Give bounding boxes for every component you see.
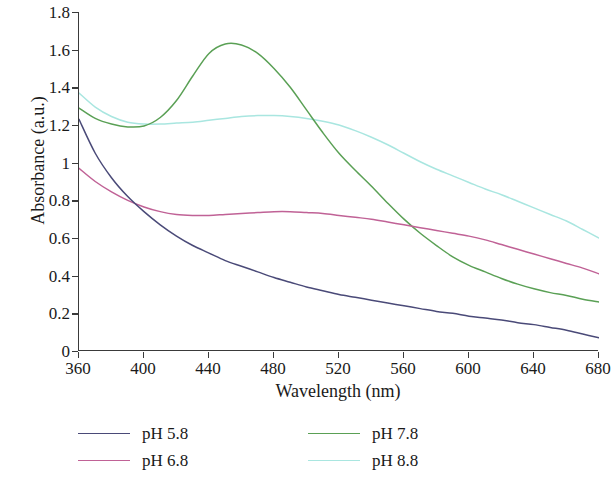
x-axis-tick-mark	[598, 352, 599, 358]
x-axis-tick-label: 480	[260, 360, 286, 377]
y-axis-title: Absorbance (a.u.)	[28, 11, 49, 311]
series-line-ph-8-8	[79, 93, 599, 238]
legend-item: pH 7.8	[308, 420, 538, 447]
legend-item-label: pH 5.8	[142, 425, 188, 442]
series-line-ph-7-8	[79, 43, 599, 302]
legend-color-swatch	[308, 433, 360, 434]
legend-item-label: pH 6.8	[142, 452, 188, 469]
legend-item: pH 5.8	[78, 420, 308, 447]
legend-item: pH 6.8	[78, 447, 308, 474]
legend-item-label: pH 7.8	[372, 425, 418, 442]
x-axis-tick-label: 640	[520, 360, 546, 377]
x-axis-title: Wavelength (nm)	[78, 381, 598, 402]
x-axis-tick-labels: 360400440480520560600640680	[78, 352, 598, 382]
legend: pH 5.8pH 6.8pH 7.8pH 8.8	[78, 420, 538, 475]
x-axis-tick-label: 400	[130, 360, 156, 377]
x-axis-tick-label: 680	[585, 360, 611, 377]
x-axis-tick-mark	[273, 352, 274, 358]
x-axis-tick-mark	[403, 352, 404, 358]
x-axis-tick-label: 360	[65, 360, 91, 377]
spectra-curves	[79, 12, 599, 351]
x-axis-tick-mark	[338, 352, 339, 358]
legend-color-swatch	[308, 460, 360, 461]
legend-color-swatch	[78, 460, 130, 461]
x-axis-tick-label: 560	[390, 360, 416, 377]
legend-item: pH 8.8	[308, 447, 538, 474]
series-line-ph-6-8	[79, 168, 599, 273]
x-axis-tick-mark	[468, 352, 469, 358]
plot-area	[78, 12, 598, 351]
x-axis-tick-mark	[533, 352, 534, 358]
legend-item-label: pH 8.8	[372, 452, 418, 469]
x-axis-tick-mark	[78, 352, 79, 358]
x-axis-tick-label: 440	[195, 360, 221, 377]
x-axis-tick-label: 520	[325, 360, 351, 377]
x-axis-tick-mark	[143, 352, 144, 358]
absorbance-spectra-figure: 00.20.40.60.811.21.41.61.8 3604004404805…	[0, 0, 614, 479]
x-axis-tick-mark	[208, 352, 209, 358]
x-axis-tick-label: 600	[455, 360, 481, 377]
legend-color-swatch	[78, 433, 130, 434]
